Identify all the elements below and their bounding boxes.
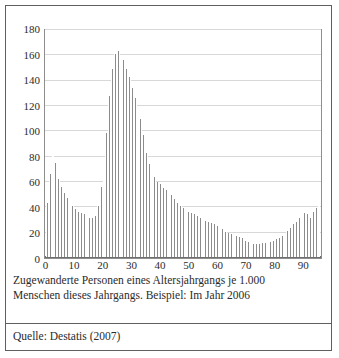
figure-source: Quelle: Destatis (2007) [6,323,331,344]
x-tick-label-20: 20 [97,260,108,271]
x-tick-label-80: 80 [269,260,280,271]
y-tick-label-80: 80 [29,151,40,162]
plot-frame [44,29,322,259]
bar [318,203,321,257]
caption-line-2: Menschen dieses Jahrgangs. Beispiel: Im … [13,288,324,303]
bar-series [46,31,320,257]
y-tick-label-140: 140 [24,75,41,86]
figure-container: 020406080100120140160180 010203040506070… [5,5,332,351]
caption-line-1: Zugewanderte Personen eines Altersjahrga… [13,273,324,288]
x-axis: 0102030405060708090 [44,259,322,271]
y-tick-label-40: 40 [29,202,40,213]
x-tick-label-90: 90 [298,260,309,271]
y-tick-label-120: 120 [24,100,41,111]
x-tick-label-10: 10 [69,260,80,271]
chart-plot-area: 020406080100120140160180 010203040506070… [6,6,331,271]
y-axis: 020406080100120140160180 [6,6,44,271]
source-text: Quelle: Destatis (2007) [13,329,324,344]
x-tick-label-50: 50 [183,260,194,271]
y-tick-label-160: 160 [24,49,41,60]
x-tick-label-0: 0 [43,260,49,271]
figure-caption: Zugewanderte Personen eines Altersjahrga… [6,271,331,302]
gridline-180 [45,29,321,30]
y-tick-label-20: 20 [29,228,40,239]
x-tick-label-40: 40 [155,260,166,271]
x-tick-label-70: 70 [241,260,252,271]
y-tick-label-180: 180 [24,24,41,35]
y-tick-label-100: 100 [24,126,41,137]
x-tick-label-30: 30 [126,260,137,271]
y-tick-label-0: 0 [35,254,41,265]
x-tick-label-60: 60 [212,260,223,271]
y-tick-label-60: 60 [29,177,40,188]
